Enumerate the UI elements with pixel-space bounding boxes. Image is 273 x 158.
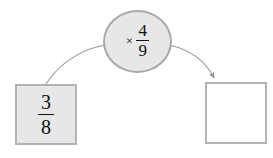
fraction-four-ninths: 4 9 (136, 22, 149, 59)
operator-expression: × 4 9 (126, 22, 149, 59)
arrow-input-to-operator (46, 45, 106, 84)
operator-ellipse: × 4 9 (103, 10, 172, 73)
multiplication-icon: × (126, 34, 133, 47)
arrow-operator-to-output (169, 45, 214, 78)
output-answer-box[interactable] (205, 82, 267, 144)
fraction-multiplication-diagram: 3 8 × 4 9 (0, 0, 273, 158)
input-fraction-bar (38, 114, 54, 115)
fraction-three-eighths: 3 8 (38, 92, 54, 137)
output-answer-value (207, 84, 265, 142)
input-numerator: 3 (41, 92, 51, 112)
operator-denominator: 9 (137, 42, 148, 59)
input-denominator: 8 (41, 117, 51, 137)
operator-numerator: 4 (137, 22, 148, 39)
input-fraction-box[interactable]: 3 8 (15, 84, 77, 145)
